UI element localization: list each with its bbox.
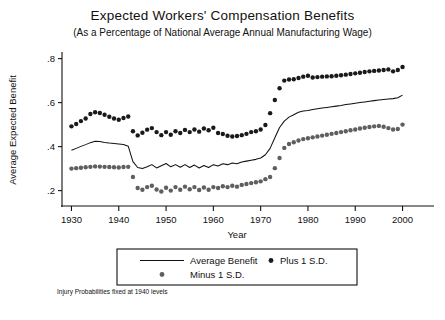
series-points-plus-1-sd <box>112 116 116 120</box>
series-points-minus-1-sd <box>287 142 291 146</box>
series-points-plus-1-sd <box>117 118 121 122</box>
series-points-minus-1-sd <box>254 180 258 184</box>
series-points-minus-1-sd <box>74 166 78 170</box>
figure: Expected Workers' Compensation Benefits … <box>0 0 445 320</box>
series-points-plus-1-sd <box>154 130 158 134</box>
series-points-minus-1-sd <box>400 122 404 126</box>
series-points-plus-1-sd <box>353 71 357 75</box>
legend-dot-swatch <box>160 272 165 277</box>
series-points-minus-1-sd <box>263 177 267 181</box>
series-points-minus-1-sd <box>306 136 310 140</box>
series-points-plus-1-sd <box>292 77 296 81</box>
series-points-plus-1-sd <box>325 74 329 78</box>
axes: .2.4.6.819301940195019601970198019902000 <box>47 52 434 225</box>
series-points-plus-1-sd <box>282 78 286 82</box>
series-points-minus-1-sd <box>377 124 381 128</box>
series-points-plus-1-sd <box>296 76 300 80</box>
legend-item-label[interactable]: Plus 1 S.D. <box>280 255 328 266</box>
series-points-plus-1-sd <box>197 129 201 133</box>
series-points-plus-1-sd <box>268 111 272 115</box>
series-points-plus-1-sd <box>192 127 196 131</box>
legend-item-label[interactable]: Minus 1 S.D. <box>190 269 244 280</box>
series-points-minus-1-sd <box>329 132 333 136</box>
series-points-plus-1-sd <box>363 70 367 74</box>
series-points-plus-1-sd <box>169 133 173 137</box>
series-points-minus-1-sd <box>334 131 338 135</box>
series-points-plus-1-sd <box>277 86 281 90</box>
series-points-minus-1-sd <box>117 165 121 169</box>
series-points-plus-1-sd <box>74 122 78 126</box>
x-tick-label: 1940 <box>108 214 129 225</box>
data-series <box>69 65 404 194</box>
series-points-minus-1-sd <box>296 138 300 142</box>
legend-dot-swatch <box>269 258 274 263</box>
series-points-minus-1-sd <box>183 184 187 188</box>
series-points-minus-1-sd <box>131 175 135 179</box>
chart-legend[interactable]: Average BenefitPlus 1 S.D.Minus 1 S.D. <box>117 249 357 285</box>
series-points-plus-1-sd <box>102 113 106 117</box>
series-points-minus-1-sd <box>363 125 367 129</box>
series-points-minus-1-sd <box>145 185 149 189</box>
series-points-minus-1-sd <box>258 179 262 183</box>
y-tick-label: .2 <box>47 185 55 196</box>
series-points-plus-1-sd <box>131 129 135 133</box>
series-points-minus-1-sd <box>112 165 116 169</box>
series-points-minus-1-sd <box>164 186 168 190</box>
series-points-plus-1-sd <box>287 77 291 81</box>
series-points-minus-1-sd <box>206 188 210 192</box>
series-points-minus-1-sd <box>197 188 201 192</box>
x-axis-label: Year <box>227 229 246 240</box>
series-points-minus-1-sd <box>292 140 296 144</box>
series-points-minus-1-sd <box>93 164 97 168</box>
series-points-plus-1-sd <box>400 65 404 69</box>
series-points-plus-1-sd <box>235 134 239 138</box>
series-points-minus-1-sd <box>173 185 177 189</box>
series-points-plus-1-sd <box>211 125 215 129</box>
series-points-minus-1-sd <box>273 166 277 170</box>
series-points-plus-1-sd <box>135 133 139 137</box>
series-points-minus-1-sd <box>277 156 281 160</box>
x-tick-label: 1990 <box>345 214 366 225</box>
series-points-plus-1-sd <box>206 128 210 132</box>
series-points-plus-1-sd <box>150 126 154 130</box>
series-points-plus-1-sd <box>126 114 130 118</box>
series-points-plus-1-sd <box>396 68 400 72</box>
series-points-plus-1-sd <box>88 112 92 116</box>
series-points-plus-1-sd <box>348 72 352 76</box>
chart-canvas: .2.4.6.819301940195019601970198019902000… <box>0 0 445 320</box>
series-points-plus-1-sd <box>145 127 149 131</box>
series-points-plus-1-sd <box>98 111 102 115</box>
series-points-plus-1-sd <box>173 129 177 133</box>
series-points-minus-1-sd <box>282 146 286 150</box>
series-points-plus-1-sd <box>164 130 168 134</box>
series-points-minus-1-sd <box>244 182 248 186</box>
series-points-plus-1-sd <box>301 74 305 78</box>
series-points-minus-1-sd <box>381 125 385 129</box>
legend-item-label[interactable]: Average Benefit <box>190 255 258 266</box>
series-points-plus-1-sd <box>320 74 324 78</box>
series-points-plus-1-sd <box>216 131 220 135</box>
series-points-minus-1-sd <box>235 184 239 188</box>
series-points-plus-1-sd <box>344 72 348 76</box>
series-points-minus-1-sd <box>188 187 192 191</box>
series-points-minus-1-sd <box>396 127 400 131</box>
series-points-minus-1-sd <box>79 166 83 170</box>
series-points-minus-1-sd <box>150 184 154 188</box>
series-points-minus-1-sd <box>320 133 324 137</box>
x-tick-label: 1930 <box>61 214 82 225</box>
y-tick-label: .4 <box>47 141 55 152</box>
series-points-plus-1-sd <box>315 75 319 79</box>
series-points-plus-1-sd <box>69 124 73 128</box>
x-tick-label: 2000 <box>392 214 413 225</box>
series-points-minus-1-sd <box>98 164 102 168</box>
series-points-minus-1-sd <box>225 185 229 189</box>
series-points-minus-1-sd <box>192 185 196 189</box>
figure-note: Injury Probabilities fixed at 1940 level… <box>57 288 168 296</box>
series-points-plus-1-sd <box>339 73 343 77</box>
series-points-minus-1-sd <box>353 127 357 131</box>
series-points-plus-1-sd <box>183 128 187 132</box>
series-points-plus-1-sd <box>202 126 206 130</box>
series-points-plus-1-sd <box>254 129 258 133</box>
series-points-minus-1-sd <box>348 128 352 132</box>
series-points-plus-1-sd <box>263 123 267 127</box>
